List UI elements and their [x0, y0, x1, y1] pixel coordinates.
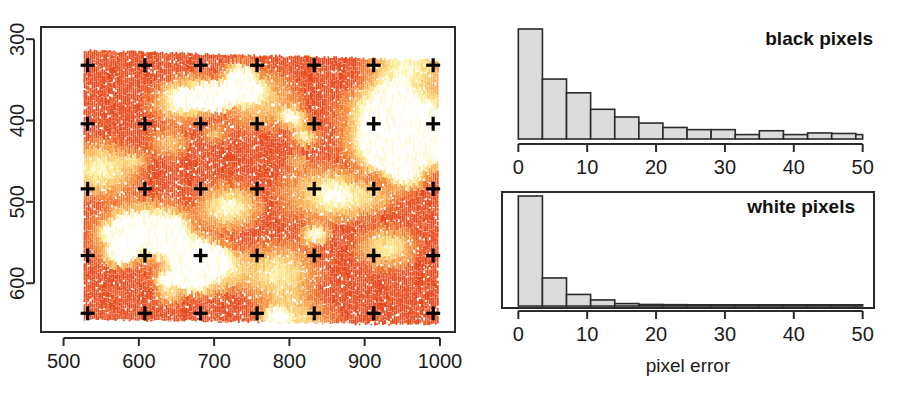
black-pixels-label: black pixels: [765, 28, 873, 49]
left-x-tick-label: 900: [348, 350, 381, 372]
left-x-tick-label: 1000: [418, 350, 463, 372]
left-x-tick-label: 700: [197, 350, 230, 372]
x-axis-tick-label: 30: [714, 323, 736, 345]
histogram-bar: [518, 196, 542, 306]
histogram-bar: [687, 130, 711, 139]
histogram-bar: [567, 93, 591, 139]
x-axis-tick-label: 0: [513, 156, 524, 178]
x-axis-tick-label: 50: [852, 156, 874, 178]
pixel-error-axis-title: pixel error: [646, 355, 731, 376]
histogram-bar: [542, 278, 566, 306]
histogram-bar: [518, 29, 542, 139]
histogram-bar: [663, 305, 687, 306]
x-axis-tick-label: 20: [645, 323, 667, 345]
histogram-bar: [808, 133, 832, 139]
x-axis-tick-label: 10: [576, 156, 598, 178]
left-y-tick-label: 500: [6, 185, 28, 218]
histogram-bar: [783, 305, 807, 306]
histogram-bar: [639, 304, 663, 306]
histogram-bar: [735, 305, 759, 306]
histogram-bar: [783, 135, 807, 139]
histogram-bar: [832, 305, 856, 306]
histogram-bar: [687, 305, 711, 306]
left-y-tick-label: 300: [6, 23, 28, 56]
histogram-bar: [542, 79, 566, 139]
x-axis-tick-label: 40: [783, 156, 805, 178]
histogram-bar: [639, 123, 663, 139]
left-y-tick-label: 400: [6, 104, 28, 137]
x-axis-tick-label: 40: [783, 323, 805, 345]
histogram-bar: [808, 305, 832, 306]
histogram-bar: [567, 294, 591, 306]
histogram-bar: [711, 305, 735, 306]
histogram-bar: [591, 300, 615, 306]
white-pixels-label: white pixels: [746, 196, 855, 217]
histogram-bar: [759, 131, 783, 139]
x-axis-tick-label: 10: [576, 323, 598, 345]
x-axis-tick-label: 50: [852, 323, 874, 345]
histogram-bar: [663, 127, 687, 139]
histogram-bar: [856, 305, 863, 306]
histogram-bar: [615, 117, 639, 139]
left-y-tick-label: 600: [6, 267, 28, 300]
left-x-tick-label: 800: [273, 350, 306, 372]
histogram-bar: [735, 135, 759, 139]
figure-root: 5006007008009001000 300400500600 0102030…: [0, 0, 908, 395]
figure-canvas: 5006007008009001000 300400500600 0102030…: [0, 0, 908, 395]
histogram-bar: [856, 135, 863, 139]
histogram-bar: [759, 305, 783, 306]
histogram-bar: [832, 134, 856, 140]
x-axis-tick-label: 0: [513, 323, 524, 345]
histogram-bar: [711, 130, 735, 139]
histogram-bar: [615, 304, 639, 306]
x-axis-tick-label: 30: [714, 156, 736, 178]
x-axis-tick-label: 20: [645, 156, 667, 178]
histogram-bar: [591, 109, 615, 139]
left-x-tick-label: 600: [122, 350, 155, 372]
left-x-tick-label: 500: [47, 350, 80, 372]
